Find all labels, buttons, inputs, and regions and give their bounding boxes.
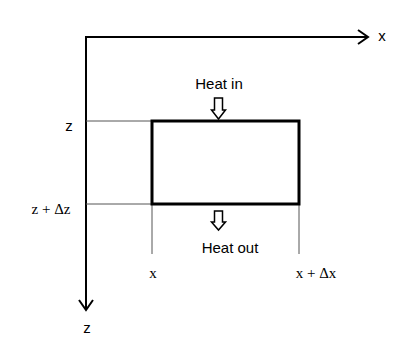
heat-in-label: Heat in xyxy=(195,75,243,92)
z-bottom-label: z + Δz xyxy=(32,201,71,217)
heat-balance-diagram: Heat in Heat out z z + Δz x x + Δx x z xyxy=(0,0,400,355)
heat-in-arrow-icon xyxy=(212,98,226,119)
x-left-label: x xyxy=(149,265,157,281)
z-top-label: z xyxy=(65,117,73,134)
control-volume-box xyxy=(152,121,299,204)
heat-out-label: Heat out xyxy=(202,239,260,256)
z-axis-label: z xyxy=(83,319,91,336)
x-axis-label: x xyxy=(378,27,386,44)
heat-out-arrow-icon xyxy=(212,211,226,230)
x-right-label: x + Δx xyxy=(296,265,337,281)
guide-lines xyxy=(86,121,299,254)
